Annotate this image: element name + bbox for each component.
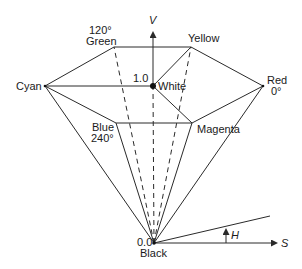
white-value-label: 1.0 <box>133 72 148 84</box>
white-label: White <box>158 80 186 92</box>
edge-black-cyan <box>45 86 154 243</box>
edge-black-red <box>154 86 263 243</box>
edge-black-white <box>153 86 154 243</box>
edge-cyan-green <box>45 47 114 86</box>
v-axis-label: V <box>149 14 158 26</box>
hsv-hexcone-diagram: V S H 120° Green Yellow Cyan 1.0 White R… <box>0 0 302 269</box>
black-label: Black <box>140 247 167 259</box>
edge-blue-cyan <box>45 86 116 123</box>
yellow-label: Yellow <box>188 32 219 44</box>
blue-angle-label: 240° <box>91 132 114 144</box>
edge-red-magenta <box>192 86 263 123</box>
h-angle-label: H <box>231 229 239 241</box>
red-point <box>262 85 265 88</box>
green-label: Green <box>86 35 117 47</box>
hue-angle-line <box>154 216 270 243</box>
cyan-label: Cyan <box>16 80 42 92</box>
red-angle-label: 0° <box>271 85 282 97</box>
cone-solid-edges <box>45 86 263 243</box>
edge-yellow-red <box>191 47 263 86</box>
magenta-label: Magenta <box>197 123 241 135</box>
black-point <box>152 241 156 245</box>
s-axis-label: S <box>281 237 289 249</box>
edge-black-blue <box>116 123 154 243</box>
white-point <box>150 83 156 89</box>
cyan-point <box>44 85 47 88</box>
